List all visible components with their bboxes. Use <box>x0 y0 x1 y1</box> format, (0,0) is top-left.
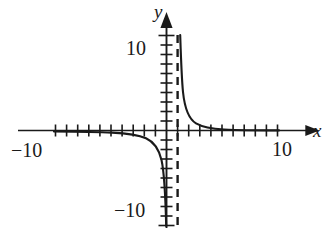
curve-left-branch <box>54 132 166 227</box>
graph-figure: −10 10 10 −10 x y <box>0 0 330 231</box>
x-axis-tick-label-negative-ten: −10 <box>11 140 42 160</box>
curve-right-branch <box>180 35 279 130</box>
y-axis-tick-label-positive-ten: 10 <box>126 38 146 58</box>
y-axis-name-label: y <box>154 2 162 21</box>
plot-canvas <box>0 0 330 231</box>
x-axis-tick-label-positive-ten: 10 <box>272 139 292 159</box>
y-axis-tick-label-negative-ten: −10 <box>114 200 145 220</box>
x-axis-name-label: x <box>313 121 321 140</box>
